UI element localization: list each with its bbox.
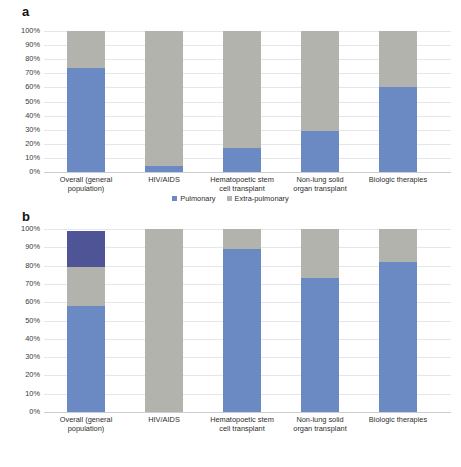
bar-segment[interactable] [379,262,417,412]
stacked-bar[interactable] [145,31,183,172]
legend-item[interactable]: Extra-pulmonary [227,195,289,202]
panel-a-y-axis: 100%90%80%70%60%50%40%30%20%10%0% [0,31,40,172]
x-axis-category-label: Non-lung solid organ transplant [287,175,353,193]
y-axis-tick-label: 90% [25,244,40,251]
bar-segment[interactable] [145,229,183,412]
stacked-bar[interactable] [67,229,105,412]
bar-segment[interactable] [301,229,339,278]
bar-segment[interactable] [223,31,261,148]
legend-swatch-icon [227,196,232,201]
bar-segment[interactable] [67,231,105,268]
bar-segment[interactable] [379,229,417,262]
y-axis-tick-label: 80% [25,262,40,269]
y-axis-tick-label: 60% [25,84,40,91]
x-axis-category-label: Hematopoetic stem cell transplant [209,415,275,433]
legend-label: Extra-pulmonary [235,195,289,202]
bar-segment[interactable] [67,306,105,412]
y-axis-tick-label: 70% [25,70,40,77]
panel-a-legend: PulmonaryExtra-pulmonary [0,195,461,202]
bar-segment[interactable] [301,31,339,131]
y-axis-tick-label: 100% [21,27,40,34]
gridline [44,412,451,413]
bar-segment[interactable] [67,267,105,305]
bar-segment[interactable] [67,31,105,68]
stacked-bar[interactable] [301,31,339,172]
gridline [44,172,451,173]
y-axis-tick-label: 60% [25,298,40,305]
x-axis-category-label: Biologic therapies [365,415,431,424]
y-axis-tick-label: 90% [25,41,40,48]
x-axis-category-label: Hematopoetic stem cell transplant [209,175,275,193]
stacked-bar-figure: a 100%90%80%70%60%50%40%30%20%10%0% Over… [0,0,461,467]
x-axis-category-label: Overall (general population) [53,175,119,193]
panel-b-y-axis: 100%90%80%70%60%50%40%30%20%10%0% [0,229,40,412]
y-axis-tick-label: 30% [25,126,40,133]
y-axis-tick-label: 80% [25,55,40,62]
y-axis-tick-label: 40% [25,112,40,119]
bar-segment[interactable] [145,31,183,166]
panel-a-plot-area [44,31,451,172]
bar-segment[interactable] [379,31,417,87]
x-axis-category-label: HIV/AIDS [131,415,197,424]
stacked-bar[interactable] [379,229,417,412]
y-axis-tick-label: 0% [29,408,40,415]
bar-segment[interactable] [379,87,417,172]
y-axis-tick-label: 70% [25,280,40,287]
bar-segment[interactable] [223,249,261,412]
x-axis-category-label: Biologic therapies [365,175,431,184]
panel-b-letter: b [22,209,30,224]
y-axis-tick-label: 30% [25,353,40,360]
stacked-bar[interactable] [223,229,261,412]
panel-b-plot-area [44,229,451,412]
x-axis-category-label: Overall (general population) [53,415,119,433]
y-axis-tick-label: 50% [25,98,40,105]
legend-label: Pulmonary [180,195,215,202]
panel-b-bars [44,229,451,412]
y-axis-tick-label: 20% [25,372,40,379]
stacked-bar[interactable] [223,31,261,172]
stacked-bar[interactable] [379,31,417,172]
x-axis-category-label: Non-lung solid organ transplant [287,415,353,433]
bar-segment[interactable] [301,131,339,172]
panel-a-letter: a [22,4,29,19]
legend-swatch-icon [172,196,177,201]
y-axis-tick-label: 0% [29,168,40,175]
y-axis-tick-label: 10% [25,154,40,161]
bar-segment[interactable] [145,166,183,172]
panel-a: a 100%90%80%70%60%50%40%30%20%10%0% Over… [0,0,461,210]
x-axis-category-label: HIV/AIDS [131,175,197,184]
panel-a-bars [44,31,451,172]
legend-item[interactable]: Pulmonary [172,195,215,202]
stacked-bar[interactable] [301,229,339,412]
stacked-bar[interactable] [145,229,183,412]
bar-segment[interactable] [223,148,261,172]
y-axis-tick-label: 100% [21,225,40,232]
bar-segment[interactable] [301,278,339,412]
y-axis-tick-label: 40% [25,335,40,342]
bar-segment[interactable] [67,68,105,172]
y-axis-tick-label: 20% [25,140,40,147]
y-axis-tick-label: 50% [25,317,40,324]
panel-b: b 100%90%80%70%60%50%40%30%20%10%0% Over… [0,207,461,467]
stacked-bar[interactable] [67,31,105,172]
y-axis-tick-label: 10% [25,390,40,397]
bar-segment[interactable] [223,229,261,249]
